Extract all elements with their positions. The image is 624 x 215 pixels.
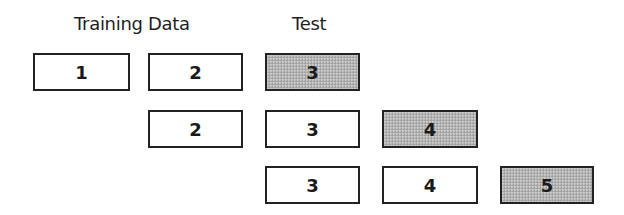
- fold-label: 2: [189, 119, 202, 140]
- fold-box-train: 2: [148, 53, 243, 91]
- fold-label: 1: [75, 62, 88, 83]
- fold-box-train: 3: [265, 110, 360, 148]
- fold-box-test: 5: [500, 166, 594, 204]
- fold-box-test: 3: [265, 53, 360, 91]
- fold-label: 4: [424, 119, 437, 140]
- test-header: Test: [292, 13, 326, 35]
- fold-box-train: 3: [265, 166, 360, 204]
- training-data-header: Training Data: [74, 13, 190, 35]
- fold-label: 3: [306, 62, 319, 83]
- fold-label: 5: [541, 175, 554, 196]
- fold-box-test: 4: [382, 110, 478, 148]
- fold-box-train: 4: [382, 166, 478, 204]
- fold-label: 3: [306, 119, 319, 140]
- fold-box-train: 1: [33, 53, 130, 91]
- fold-label: 2: [189, 62, 202, 83]
- fold-label: 3: [306, 175, 319, 196]
- fold-box-train: 2: [148, 110, 243, 148]
- fold-label: 4: [424, 175, 437, 196]
